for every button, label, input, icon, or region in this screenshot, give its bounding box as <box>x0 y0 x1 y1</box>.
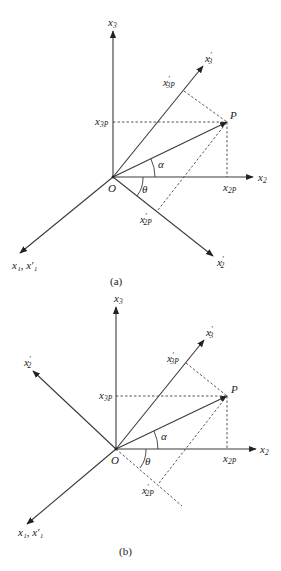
label-theta: θ <box>145 455 151 467</box>
x3pP-projection <box>184 91 227 122</box>
coordinate-rotation-figure: x3 x′3 x′3P x3P P α θ O x2 x2P x′2P x′2 … <box>0 0 281 571</box>
label-alpha: α <box>161 430 167 442</box>
label-alpha: α <box>158 158 164 170</box>
label-origin: O <box>108 182 116 194</box>
label-P: P <box>230 383 238 395</box>
label-x3: x3 <box>113 292 123 306</box>
label-x3P-prime: x′3P <box>162 75 175 90</box>
label-x2-prime: x′2 <box>216 255 225 270</box>
alpha-arc <box>154 431 158 449</box>
label-x3P-prime: x′3P <box>166 351 179 366</box>
label-x2P-prime: x′2P <box>141 483 154 498</box>
label-x2-prime: x′2 <box>23 355 32 370</box>
x1-axis <box>27 449 116 524</box>
label-x3-prime: x′3 <box>205 325 214 340</box>
label-x3: x3 <box>107 16 117 30</box>
x3-prime-axis <box>116 340 204 449</box>
x3pP-projection <box>186 363 227 396</box>
label-x2P: x2P <box>222 452 237 466</box>
panel-a: x3 x′3 x′3P x3P P α θ O x2 x2P x′2P x′2 … <box>11 16 267 288</box>
origin-point <box>115 448 118 451</box>
caption-b: (b) <box>119 545 132 558</box>
label-x1: x₁, x′₁ <box>11 259 37 271</box>
x2-prime-axis <box>33 371 116 449</box>
label-x3-prime: x′3 <box>204 51 213 66</box>
label-origin: O <box>111 454 119 466</box>
caption-a: (a) <box>110 275 123 288</box>
op-vector <box>113 122 227 177</box>
x2-prime-axis <box>113 177 213 256</box>
label-x2P-prime: x′2P <box>139 212 152 227</box>
op-vector <box>116 396 227 449</box>
label-x2: x2 <box>257 171 267 185</box>
alpha-arc <box>151 159 155 177</box>
label-theta: θ <box>142 183 148 195</box>
x2pP-projection <box>159 396 227 483</box>
label-x2: x2 <box>259 443 269 457</box>
panel-b: x3 x′3 x′3P x3P P α θ O x2 x2P x′2P x′2 … <box>17 292 269 558</box>
label-x3P: x3P <box>98 389 113 403</box>
label-x1: x₁, x′₁ <box>17 526 43 538</box>
label-x2P: x2P <box>222 181 237 195</box>
origin-point <box>112 176 115 179</box>
label-P: P <box>229 109 237 121</box>
x2pP-projection <box>158 122 227 210</box>
x1-axis <box>20 177 113 253</box>
label-x3P: x3P <box>94 115 109 129</box>
